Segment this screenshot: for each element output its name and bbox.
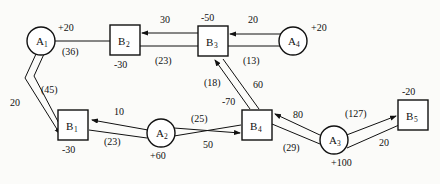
edge-a3-b5-cost: (127) (345, 108, 367, 120)
diagram-canvas: A 1 +20 A 2 +60 A 3 +100 A 4 +20 B (0, 0, 440, 184)
edge-a2-b4-flow: 50 (203, 139, 213, 150)
node-a2-subscript: 2 (164, 132, 168, 141)
node-b3-value: -50 (201, 12, 214, 23)
node-a4-value: +20 (311, 22, 327, 33)
node-a4-subscript: 4 (296, 40, 300, 49)
edge-b3-b2-flow: 30 (160, 14, 170, 25)
edge-a2-b4-cost: (25) (191, 113, 208, 125)
node-a1-label: A (36, 35, 44, 47)
node-b3-subscript: 3 (214, 41, 218, 50)
node-b5-subscript: 5 (414, 115, 418, 124)
edge-a3-b5 (344, 116, 399, 148)
node-b5-value: -20 (402, 86, 415, 97)
edge-a4-b3 (228, 34, 281, 46)
node-b5[interactable]: B 5 -20 (398, 86, 428, 130)
node-b4[interactable]: B 4 -70 (222, 96, 272, 140)
node-b2[interactable]: B 2 -30 (110, 25, 140, 70)
edge-a3-b5-flow: 20 (379, 137, 389, 148)
node-a4-label: A (288, 35, 296, 47)
edge-b3-b2-cost: (23) (155, 55, 172, 67)
edge-a4-b3-cost: (13) (243, 55, 260, 67)
node-b1[interactable]: B 1 -30 (58, 110, 88, 155)
node-b2-label: B (118, 35, 125, 47)
node-b2-subscript: 2 (126, 40, 130, 49)
node-a1-value: +20 (58, 22, 74, 33)
node-a2-value: +60 (150, 150, 166, 161)
node-a4[interactable]: A 4 +20 (279, 22, 327, 55)
node-b3[interactable]: B 3 -50 (198, 12, 228, 56)
edge-a2-b1-flow: 10 (114, 106, 124, 117)
node-a3-label: A (329, 134, 337, 146)
node-b4-label: B (250, 120, 257, 132)
node-b1-label: B (66, 120, 73, 132)
node-a1-subscript: 1 (44, 40, 48, 49)
node-b3-label: B (206, 36, 213, 48)
node-b1-subscript: 1 (74, 125, 78, 134)
node-b4-value: -70 (222, 96, 235, 107)
node-b4-subscript: 4 (258, 125, 262, 134)
node-b5-label: B (406, 110, 413, 122)
node-a2[interactable]: A 2 +60 (147, 119, 175, 161)
edge-b4-b3-flow: 60 (253, 79, 263, 90)
node-a2-label: A (156, 127, 164, 139)
network-diagram: A 1 +20 A 2 +60 A 3 +100 A 4 +20 B (0, 0, 440, 184)
edge-a1-b2-cost: (36) (62, 46, 79, 58)
node-a3[interactable]: A 3 +100 (320, 126, 352, 168)
edge-a3-b4-cost: (29) (283, 142, 300, 154)
edge-a4-b3-flow: 20 (248, 14, 258, 25)
node-a3-subscript: 3 (337, 139, 341, 148)
node-a3-value: +100 (331, 157, 352, 168)
edge-a1-b1-cost: (45) (41, 84, 58, 96)
node-b2-value: -30 (114, 59, 127, 70)
edge-a2-b1-cost: (23) (104, 136, 121, 148)
node-b1-value: -30 (62, 144, 75, 155)
edge-b3-b2 (140, 33, 198, 46)
edge-a2-b4 (174, 125, 241, 136)
edge-b4-b3-cost: (18) (204, 77, 221, 89)
edge-a1-b1-flow: 20 (10, 97, 20, 108)
edge-a3-b4-flow: 80 (293, 109, 303, 120)
